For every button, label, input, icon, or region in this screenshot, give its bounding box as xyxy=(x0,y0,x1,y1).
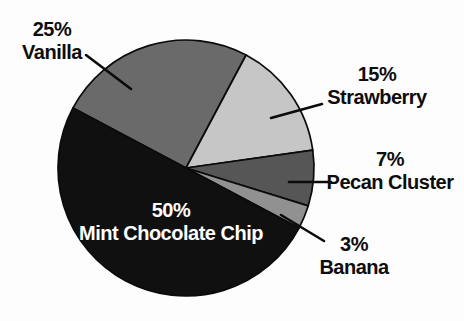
label-mint-chocolate-chip-name: Mint Chocolate Chip xyxy=(79,222,263,245)
label-strawberry: 15% Strawberry xyxy=(327,63,427,109)
label-vanilla-name: Vanilla xyxy=(22,41,82,64)
label-pecan-cluster-name: Pecan Cluster xyxy=(327,171,454,194)
label-strawberry-pct: 15% xyxy=(327,63,427,86)
label-strawberry-name: Strawberry xyxy=(327,86,427,109)
pie-chart-figure: 25% Vanilla 15% Strawberry 7% Pecan Clus… xyxy=(0,0,464,321)
label-pecan-cluster-pct: 7% xyxy=(327,148,454,171)
label-vanilla: 25% Vanilla xyxy=(22,18,82,64)
label-banana-pct: 3% xyxy=(319,233,388,256)
label-banana: 3% Banana xyxy=(319,233,388,279)
label-vanilla-pct: 25% xyxy=(22,18,82,41)
label-banana-name: Banana xyxy=(319,256,388,279)
label-mint-chocolate-chip-pct: 50% xyxy=(79,199,263,222)
label-mint-chocolate-chip: 50% Mint Chocolate Chip xyxy=(79,199,263,245)
label-pecan-cluster: 7% Pecan Cluster xyxy=(327,148,454,194)
